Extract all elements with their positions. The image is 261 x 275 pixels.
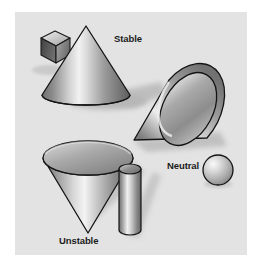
cylinder-top-cap <box>119 164 141 174</box>
sphere-body <box>203 155 233 185</box>
label-unstable: Unstable <box>59 235 98 246</box>
shape-sphere <box>203 155 233 185</box>
figure-root: Stable Neutral Unstable <box>0 0 261 275</box>
shape-cylinder <box>119 164 141 235</box>
label-neutral: Neutral <box>167 160 199 171</box>
shapes-illustration <box>15 12 247 255</box>
diagram-panel: Stable Neutral Unstable <box>15 12 247 255</box>
cylinder-body <box>119 169 141 235</box>
label-stable: Stable <box>114 33 142 44</box>
